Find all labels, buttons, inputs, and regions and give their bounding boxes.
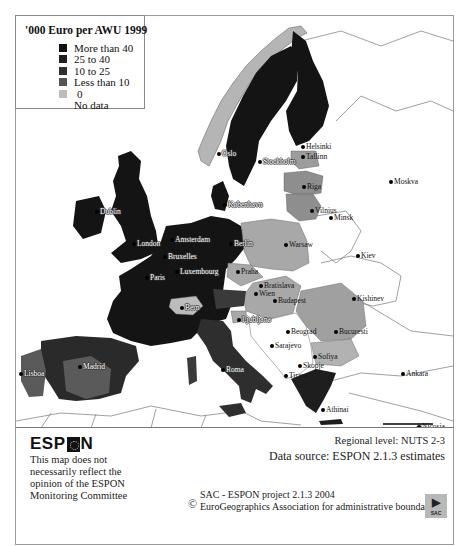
city-marker-icon: [401, 372, 405, 376]
city-label: Wien: [259, 290, 275, 298]
city-label: Athinai: [326, 406, 349, 414]
city-label: Minsk: [334, 214, 353, 222]
city-marker-icon: [284, 374, 288, 378]
city-label: Warsaw: [289, 241, 313, 249]
city-marker-icon: [313, 355, 317, 359]
legend-label: 0: [74, 88, 83, 100]
city-marker-icon: [259, 284, 263, 288]
city-label: København: [228, 201, 263, 209]
city-label: Sarajevo: [275, 342, 301, 350]
disclaimer-text: This map does not necessarily reflect th…: [30, 454, 140, 502]
region-sardinia: [187, 356, 197, 385]
legend-item-10-to-25: 10 to 25: [59, 65, 133, 76]
legend-swatch: [59, 101, 67, 109]
city-label: Bucuresti: [339, 328, 368, 336]
legend-title: '000 Euro per AWU 1999: [25, 24, 147, 36]
city-marker-icon: [298, 364, 302, 368]
city-marker-icon: [95, 210, 99, 214]
legend-swatch: [59, 78, 67, 86]
city-marker-icon: [132, 242, 136, 246]
city-label: Luxembourg: [180, 268, 219, 276]
legend-swatch: [59, 55, 67, 63]
city-label: Ankara: [406, 370, 428, 378]
city-marker-icon: [310, 209, 314, 213]
legend-label: No data: [74, 99, 109, 111]
city-label: Tallinn: [306, 153, 327, 161]
legend-item-25-to-40: 25 to 40: [59, 54, 133, 65]
eu-stars-icon: [67, 437, 80, 452]
city-label: Skopje: [303, 362, 324, 370]
city-label: Madrid: [83, 363, 105, 371]
city-label: Bern: [185, 304, 200, 312]
espon-logo-text-left: ESP: [30, 434, 66, 454]
credit-line-2: EuroGeographics Association for administ…: [200, 501, 439, 512]
sac-logo-icon: ▶: [425, 494, 447, 510]
legend-item-less-than-10: Less than 10: [59, 77, 133, 88]
sac-logo-text: SAC: [431, 510, 442, 516]
sac-logo: ▶ SAC: [425, 494, 447, 518]
city-label: Dublin: [100, 208, 121, 216]
city-label: Stockholm: [263, 158, 296, 166]
city-marker-icon: [223, 203, 227, 207]
city-label: Amsterdam: [175, 236, 210, 244]
city-marker-icon: [321, 408, 325, 412]
city-marker-icon: [258, 160, 262, 164]
city-marker-icon: [217, 152, 221, 156]
legend-label: Less than 10: [74, 76, 130, 88]
city-marker-icon: [145, 276, 149, 280]
city-label: Kiev: [361, 252, 376, 260]
city-label: Paris: [150, 274, 165, 282]
city-marker-icon: [301, 145, 305, 149]
city-marker-icon: [284, 243, 288, 247]
city-label: Helsinki: [306, 143, 331, 151]
region-austria: [213, 289, 246, 309]
map-footer: ESPN This map does not necessarily refle…: [15, 427, 454, 545]
city-label: Praha: [241, 268, 258, 276]
city-marker-icon: [334, 330, 338, 334]
city-marker-icon: [78, 365, 82, 369]
espon-logo: ESPN: [30, 434, 93, 454]
city-marker-icon: [236, 270, 240, 274]
region-sicily: [219, 403, 246, 417]
city-marker-icon: [302, 185, 306, 189]
city-marker-icon: [254, 292, 258, 296]
city-marker-icon: [273, 299, 277, 303]
city-marker-icon: [170, 238, 174, 242]
city-marker-icon: [301, 155, 305, 159]
city-label: Sofiya: [318, 353, 338, 361]
city-marker-icon: [389, 180, 393, 184]
city-label: Moskva: [394, 178, 418, 186]
city-marker-icon: [175, 270, 179, 274]
city-marker-icon: [286, 330, 290, 334]
legend-swatch: [59, 44, 67, 52]
copyright-icon: ©: [188, 497, 197, 512]
city-label: Ljubljana: [242, 316, 271, 324]
city-marker-icon: [356, 254, 360, 258]
city-label: Bruxelles: [168, 253, 197, 261]
city-marker-icon: [229, 242, 233, 246]
legend-label: 10 to 25: [74, 65, 110, 77]
legend-label: More than 40: [74, 42, 133, 54]
city-label: London: [137, 240, 160, 248]
city-label: Beograd: [291, 328, 316, 336]
map-legend: '000 Euro per AWU 1999 More than 40 25 t…: [15, 15, 145, 109]
city-marker-icon: [221, 368, 225, 372]
legend-item-zero: 0: [59, 88, 133, 99]
city-label: Berlin: [234, 240, 253, 248]
regional-level: Regional level: NUTS 2-3: [334, 435, 445, 446]
city-label: Budapest: [278, 297, 306, 305]
city-label: Roma: [226, 366, 244, 374]
city-label: Lisboa: [24, 370, 44, 378]
espon-logo-text-right: N: [81, 434, 94, 454]
city-marker-icon: [180, 306, 184, 310]
city-marker-icon: [329, 216, 333, 220]
data-source: Data source: ESPON 2.1.3 estimates: [269, 449, 445, 464]
city-marker-icon: [163, 255, 167, 259]
city-label: Riga: [307, 183, 321, 191]
region-ireland: [73, 196, 106, 239]
legend-items: More than 40 25 to 40 10 to 25 Less than…: [59, 42, 133, 111]
city-marker-icon: [270, 344, 274, 348]
region-crete: [319, 419, 343, 425]
city-marker-icon: [19, 372, 23, 376]
legend-label: 25 to 40: [74, 53, 110, 65]
